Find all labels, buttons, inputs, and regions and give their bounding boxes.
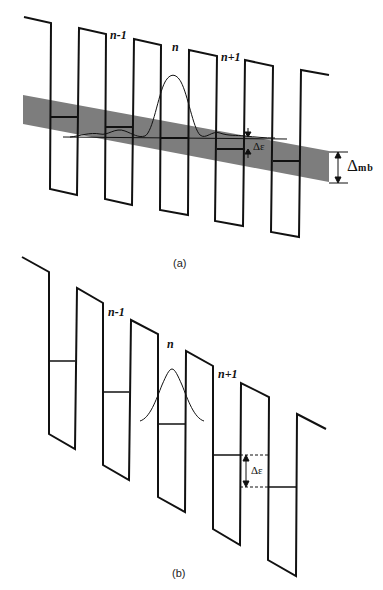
label-n-minus-1-b: n-1	[108, 305, 125, 320]
delta-mb-subscript: mb	[358, 162, 374, 173]
delta-mb-bracket	[329, 152, 348, 183]
delta-symbol: Δ	[347, 156, 358, 175]
delta-epsilon-label-a: Δε	[253, 140, 265, 152]
caption-a: (a)	[173, 257, 186, 269]
delta-mb-label: Δmb	[347, 156, 374, 176]
label-n-b: n	[167, 337, 174, 352]
wavefunction-b	[140, 369, 204, 421]
label-n-plus-1-b: n+1	[218, 367, 238, 382]
diagram-canvas	[0, 0, 383, 590]
caption-b: (b)	[172, 567, 185, 579]
potential-profile-b	[22, 257, 326, 576]
label-n-a: n	[172, 40, 179, 55]
label-n-plus-1-a: n+1	[221, 50, 241, 65]
delta-epsilon-label-b: Δε	[251, 464, 263, 476]
label-n-minus-1-a: n-1	[110, 28, 127, 43]
